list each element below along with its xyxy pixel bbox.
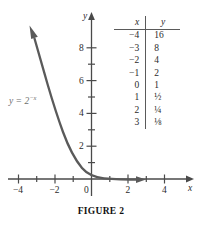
table-cell-x: −4 — [114, 30, 146, 43]
table-cell-x: −2 — [114, 55, 146, 67]
value-table: x y −4 16 −3 8 −2 4 −1 2 — [114, 16, 180, 129]
table-cell-x: 3 — [114, 117, 146, 129]
table-row: 1 ½ — [114, 92, 180, 104]
table-cell-y: 1 — [146, 80, 180, 92]
origin-label: 0 — [84, 186, 89, 196]
figure-container: −4 −2 2 4 0 2 4 6 8 y x y = 2−x x y −4 1… — [0, 0, 202, 226]
x-tick-label-4: 4 — [162, 186, 167, 196]
curve-arrowhead-left — [30, 26, 38, 39]
table-cell-x: −3 — [114, 42, 146, 54]
table-cell-y: 16 — [146, 30, 180, 43]
table-cell-x: 2 — [114, 104, 146, 116]
table-cell-y: 2 — [146, 67, 180, 79]
y-tick-label-4: 4 — [79, 109, 84, 119]
table-header-x: x — [114, 16, 146, 30]
y-axis-arrowhead — [88, 12, 95, 20]
table-cell-y: ½ — [146, 92, 180, 104]
x-tick-label--4: −4 — [13, 186, 23, 196]
table-row: −1 2 — [114, 67, 180, 79]
y-tick-label-2: 2 — [79, 142, 84, 152]
curve-arrowhead-right — [136, 176, 146, 183]
table-cell-x: −1 — [114, 67, 146, 79]
table-header-row: x y — [114, 16, 180, 30]
table-row: 2 ¼ — [114, 104, 180, 116]
table-cell-x: 1 — [114, 92, 146, 104]
table-cell-y: 4 — [146, 55, 180, 67]
function-equation-label: y = 2−x — [9, 97, 36, 107]
equation-exponent: −x — [29, 94, 36, 101]
x-axis-label: x — [188, 184, 192, 194]
table-cell-x: 0 — [114, 80, 146, 92]
table-row: −4 16 — [114, 30, 180, 43]
figure-caption: FIGURE 2 — [0, 206, 202, 216]
y-tick-label-8: 8 — [79, 44, 84, 54]
table-row: −2 4 — [114, 55, 180, 67]
y-axis-label: y — [83, 12, 87, 22]
x-axis-arrowhead — [186, 176, 194, 183]
equation-base: y = 2 — [9, 96, 29, 106]
table-header-y: y — [146, 16, 180, 30]
x-tick-label-2: 2 — [126, 186, 131, 196]
y-tick-label-6: 6 — [79, 77, 84, 87]
table-row: 0 1 — [114, 80, 180, 92]
table-row: −3 8 — [114, 42, 180, 54]
x-tick-label--2: −2 — [50, 186, 60, 196]
table-cell-y: 8 — [146, 42, 180, 54]
table-row: 3 ⅛ — [114, 117, 180, 129]
table-cell-y: ¼ — [146, 104, 180, 116]
table-cell-y: ⅛ — [146, 117, 180, 129]
